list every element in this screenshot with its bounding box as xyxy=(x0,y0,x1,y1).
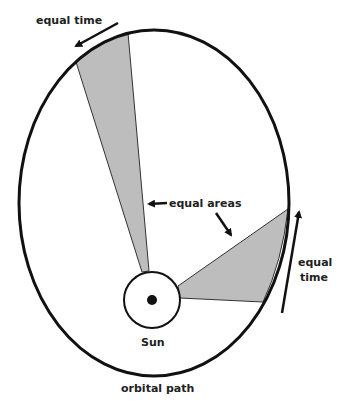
equal-time-right-label-line1: equal xyxy=(298,256,332,269)
equal-areas-label: equal areas xyxy=(169,197,241,210)
top-swept-area-wedge xyxy=(76,33,149,272)
equal-areas-left-arrow-icon xyxy=(149,203,167,204)
sun-label: Sun xyxy=(141,336,165,349)
equal-time-top-label: equal time xyxy=(36,14,102,27)
equal-areas-down-arrow-icon xyxy=(216,213,231,235)
equal-time-right-label-line2: time xyxy=(300,271,328,284)
orbital-path-label: orbital path xyxy=(121,382,194,395)
kepler-diagram: equal time equal areas equal time Sun or… xyxy=(0,0,348,414)
sun-center-dot xyxy=(147,295,157,305)
